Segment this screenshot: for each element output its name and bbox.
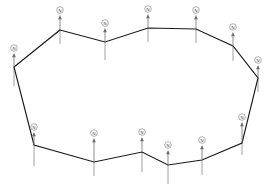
label-text: N [232,25,235,30]
vertex-label-v2[interactable]: N [102,20,109,27]
label-text: N [104,21,107,26]
label-text: N [257,58,260,63]
vertex-label-v6[interactable]: N [255,57,262,64]
vertex-label-v5[interactable]: N [230,24,237,31]
label-text: N [147,7,150,12]
vector-arrowhead-v4 [194,15,198,19]
label-text: N [195,8,198,13]
ring-edges-group [14,28,258,165]
vector-tails-group [14,28,258,184]
vector-arrowhead-v10 [140,137,144,141]
vector-arrowhead-v6 [256,65,260,69]
vertex-label-v9[interactable]: N [165,142,172,149]
vector-arrowhead-v7 [240,122,244,126]
vertex-label-v7[interactable]: N [239,114,246,121]
label-text: N [13,46,16,51]
vector-arrowhead-v12 [32,132,36,136]
vector-arrowhead-v13 [12,53,16,57]
label-text: N [33,125,36,130]
vector-arrows-group [12,14,260,165]
ring-polygon [14,28,258,165]
vertex-label-v3[interactable]: N [145,6,152,13]
vector-arrowhead-v11 [92,138,96,142]
label-text: N [167,143,170,148]
vector-arrowhead-v3 [146,14,150,18]
vector-arrowhead-v2 [103,28,107,32]
vector-arrowhead-v1 [58,15,62,19]
diagram-canvas: NNNNNNNNNNNNN [0,0,272,193]
vector-arrowhead-v5 [231,32,235,36]
vertex-label-v11[interactable]: N [91,130,98,137]
vertex-label-v10[interactable]: N [139,129,146,136]
vertex-labels-group: NNNNNNNNNNNNN [11,6,262,149]
vertex-label-v8[interactable]: N [199,137,206,144]
label-text: N [201,138,204,143]
label-text: N [59,8,62,13]
label-text: N [241,115,244,120]
vector-arrowhead-v9 [166,150,170,154]
vertex-label-v1[interactable]: N [57,7,64,14]
label-text: N [93,131,96,136]
vertex-label-v13[interactable]: N [11,45,18,52]
vertex-label-v12[interactable]: N [31,124,38,131]
ring-vector-diagram: NNNNNNNNNNNNN [0,0,272,193]
vertex-label-v4[interactable]: N [193,7,200,14]
label-text: N [141,130,144,135]
vector-arrowhead-v8 [200,145,204,149]
